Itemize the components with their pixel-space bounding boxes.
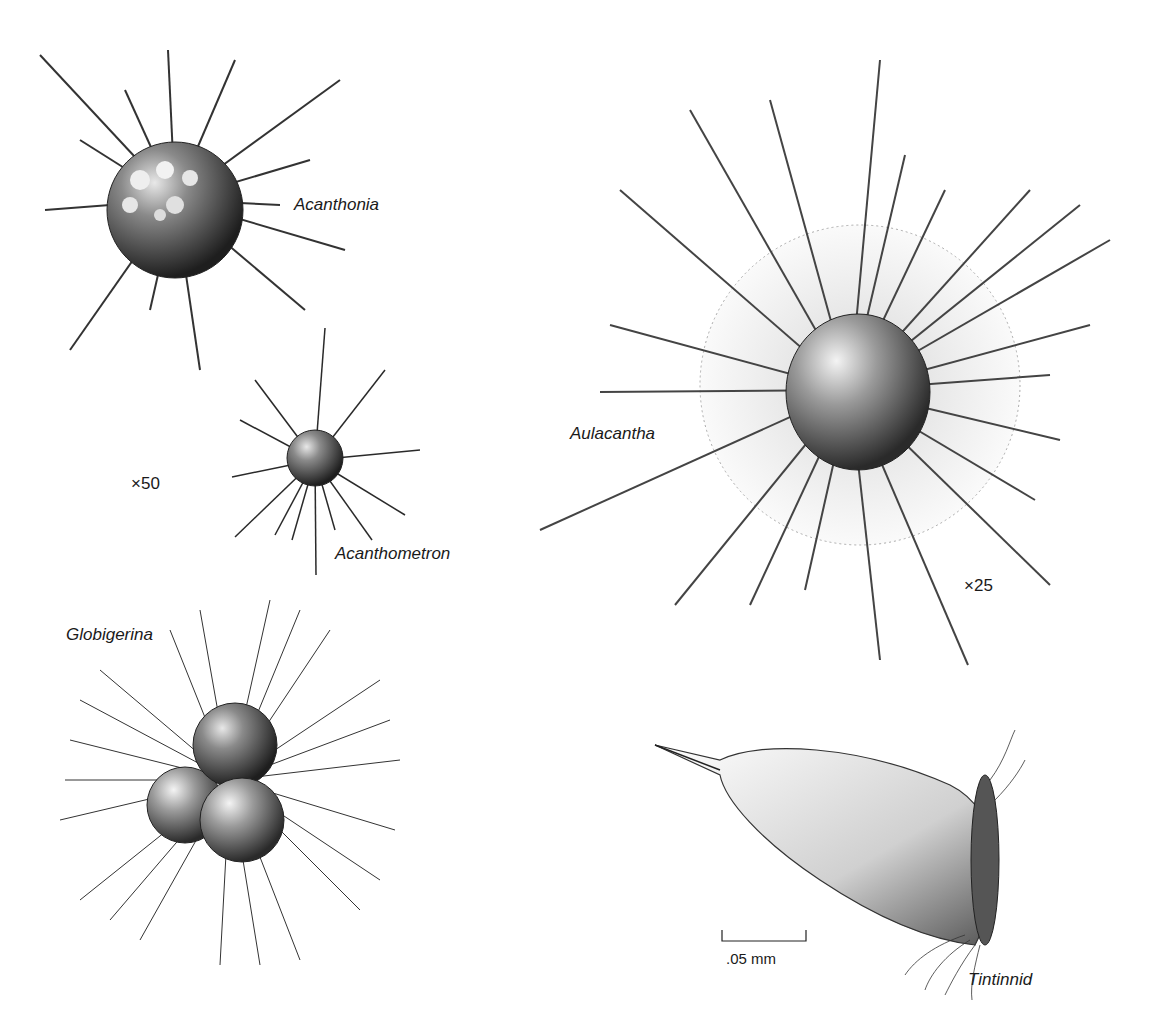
globigerina-drawing [60,600,400,965]
label-aulacantha: Aulacantha [570,424,655,444]
magnification-x25: ×25 [964,576,993,596]
magnification-x50: ×50 [131,474,160,494]
plankton-illustration [0,0,1153,1027]
aulacantha-drawing [540,60,1110,665]
label-acanthometron: Acanthometron [335,544,450,564]
label-tintinnid: Tintinnid [968,970,1032,990]
scale-bar [722,930,806,941]
acanthometron-drawing [232,328,420,575]
scale-bar-label: .05 mm [726,950,776,967]
tintinnid-drawing [655,730,1025,1000]
label-globigerina: Globigerina [66,625,153,645]
label-acanthonia: Acanthonia [294,195,379,215]
